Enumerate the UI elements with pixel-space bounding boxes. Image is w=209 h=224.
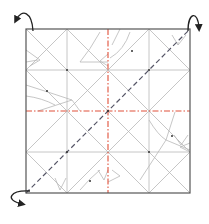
fold-behind-arrow-top-left-icon [16,13,33,31]
crease-pattern-diagram [0,0,209,224]
